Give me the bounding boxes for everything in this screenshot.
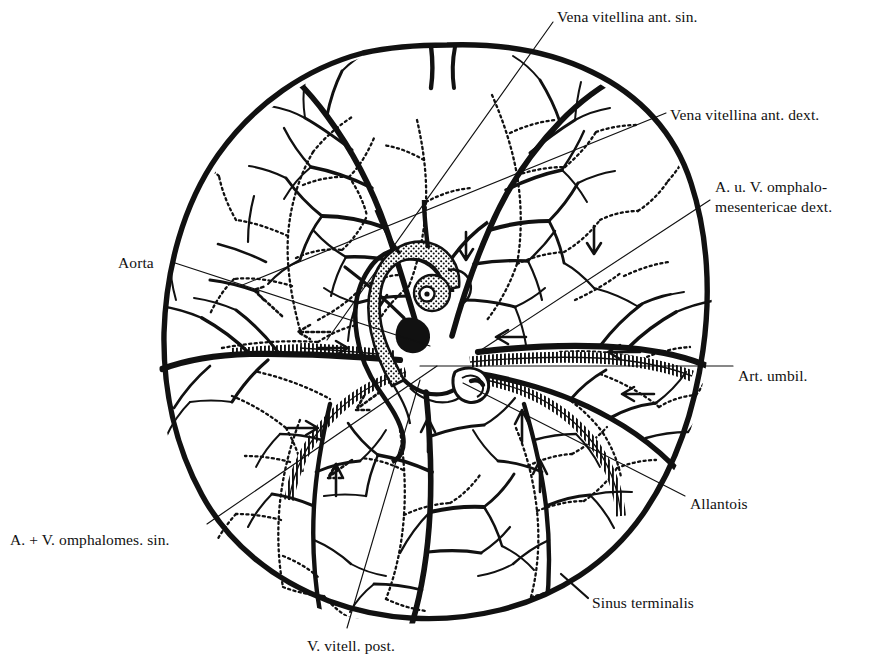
- label-vena-vitellina-ant-sin: Vena vitellina ant. sin.: [557, 7, 698, 27]
- label-allantois: Allantois: [690, 494, 748, 514]
- leader-v-vitell-post: [347, 380, 420, 628]
- label-aorta: Aorta: [118, 253, 154, 273]
- label-sinus-terminalis: Sinus terminalis: [592, 593, 694, 613]
- label-a-plus-v-omphalomes-sin: A. + V. omphalomes. sin.: [10, 530, 170, 550]
- label-art-umbil: Art. umbil.: [738, 366, 808, 386]
- label-a-u-v-omphalomesentericae-dext: A. u. V. omphalo- mesentericae dext.: [715, 177, 865, 217]
- label-omphalomesentericae-line2: mesentericae dext.: [715, 197, 865, 217]
- vascular-plexus: [160, 51, 718, 624]
- label-v-vitell-post: V. vitell. post.: [307, 636, 395, 656]
- label-omphalomesentericae-line1: A. u. V. omphalo-: [715, 177, 865, 197]
- sinus-terminalis-border: [164, 45, 707, 619]
- plate-ink: [160, 22, 733, 628]
- veins-solid: [160, 51, 718, 624]
- yolk-sac-vascular-diagram: [0, 0, 869, 671]
- label-vena-vitellina-ant-dext: Vena vitellina ant. dext.: [670, 105, 819, 125]
- figure-root: Vena vitellina ant. sin. Vena vitellina …: [0, 0, 869, 671]
- flow-arrow-artery: [254, 286, 380, 478]
